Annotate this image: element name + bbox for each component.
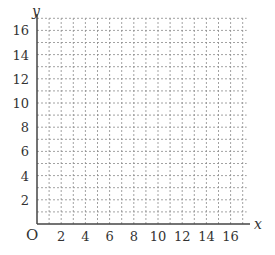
- y-tick-label: 8: [21, 120, 29, 135]
- x-tick-label: 6: [105, 229, 113, 244]
- y-tick-label: 12: [12, 72, 29, 87]
- x-tick-label: 2: [57, 229, 65, 244]
- x-axis-label: x: [254, 216, 262, 232]
- y-tick-label: 10: [12, 96, 29, 111]
- x-tick-label: 4: [81, 229, 89, 244]
- x-tick-label: 12: [174, 229, 191, 244]
- x-tick-labels: 246810121416: [57, 229, 239, 244]
- y-tick-label: 6: [21, 144, 29, 159]
- x-tick-label: 8: [130, 229, 138, 244]
- coordinate-grid-chart: 246810121416 246810121416 x y O: [0, 0, 275, 255]
- axes: [37, 14, 250, 224]
- origin-label: O: [26, 226, 38, 244]
- x-tick-label: 14: [198, 229, 215, 244]
- x-tick-label: 16: [222, 229, 239, 244]
- y-tick-labels: 246810121416: [12, 23, 29, 207]
- y-tick-label: 14: [12, 48, 29, 63]
- grid-lines: [37, 18, 247, 224]
- y-tick-label: 4: [21, 169, 29, 184]
- y-tick-label: 2: [21, 193, 29, 208]
- y-tick-label: 16: [12, 23, 29, 38]
- x-tick-label: 10: [150, 229, 167, 244]
- y-axis-label: y: [31, 3, 41, 19]
